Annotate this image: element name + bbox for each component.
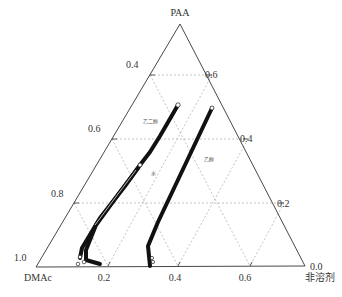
tick-label: 0.4 xyxy=(240,133,253,144)
tick-label: 0.6 xyxy=(205,69,218,80)
tick-label: 0.6 xyxy=(88,123,101,134)
marker-circle xyxy=(151,260,154,263)
tick-label: 0.4 xyxy=(169,272,182,283)
right-axis-ticks: 0.6 0.4 0.2 0.0 xyxy=(205,69,323,272)
tick-label: 0.0 xyxy=(310,261,323,272)
marker-circle xyxy=(150,256,153,259)
tick-label: 0.2 xyxy=(277,198,290,209)
curve-ethylene-glycol xyxy=(140,105,178,165)
tick-label: 1.0 xyxy=(14,252,27,263)
tick-label: 0.8 xyxy=(51,188,64,199)
ternary-diagram: PAA DMAc 非溶剂 0.4 0.6 0.8 1.0 0.6 0.4 0.2… xyxy=(0,0,342,297)
vertex-label-nonsolvent: 非溶剂 xyxy=(305,271,335,283)
curve-label-water: 水 xyxy=(151,170,156,176)
tick-label: 0.4 xyxy=(126,59,139,70)
marker-circle xyxy=(176,103,180,107)
triangle-axes xyxy=(36,24,305,267)
vertex-label-dmac: DMAc xyxy=(24,272,52,283)
marker-circle xyxy=(82,260,86,264)
tick-label: 0.2 xyxy=(98,272,111,283)
bottom-axis-ticks: 0.2 0.4 0.6 xyxy=(98,272,252,283)
curve-label-ethanol: 乙醇 xyxy=(204,156,214,163)
vertex-labels: PAA DMAc 非溶剂 xyxy=(24,7,335,283)
tick-label: 0.6 xyxy=(239,272,252,283)
marker-circle xyxy=(78,255,82,259)
vertex-label-paa: PAA xyxy=(170,7,190,18)
marker-circle xyxy=(76,262,80,266)
curve-water-3 xyxy=(86,260,100,264)
marker-circle xyxy=(210,106,214,110)
curve-label-ethylene-glycol: 乙二醇 xyxy=(143,118,158,125)
marker-circle xyxy=(138,163,142,167)
left-axis-ticks: 0.4 0.6 0.8 1.0 xyxy=(14,59,139,263)
